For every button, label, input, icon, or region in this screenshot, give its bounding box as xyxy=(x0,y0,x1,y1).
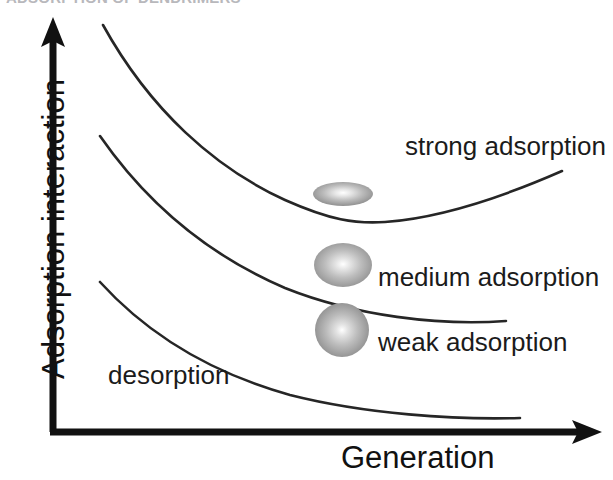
y-axis-title: Adsorption interaction xyxy=(36,79,72,379)
label-medium-adsorption: medium adsorption xyxy=(378,262,599,293)
particle-oval-icon xyxy=(314,243,372,287)
label-desorption: desorption xyxy=(108,360,229,391)
particle-sphere-icon xyxy=(315,303,369,357)
particle-group xyxy=(313,182,373,357)
label-strong-adsorption: strong adsorption xyxy=(405,131,606,162)
figure-root: ADSORPTION OF DENDRIMERS xyxy=(0,0,613,480)
x-axis-title: Generation xyxy=(341,440,494,476)
curve-medium-adsorption xyxy=(100,136,506,322)
plot-canvas xyxy=(0,0,613,480)
label-weak-adsorption: weak adsorption xyxy=(378,327,567,358)
particle-flat-ellipse-icon xyxy=(313,182,373,206)
